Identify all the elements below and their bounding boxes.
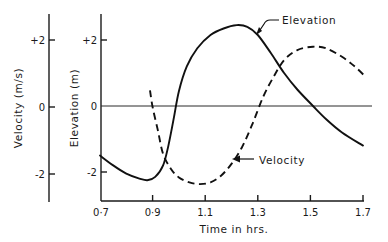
x-tick-label: 0·9 bbox=[145, 207, 161, 218]
x-tick-label: 1.3 bbox=[250, 207, 266, 218]
elevation-annotation-label: Elevation bbox=[282, 14, 336, 26]
elevation-annotation: Elevation bbox=[256, 14, 336, 35]
velocity-series-line bbox=[150, 47, 366, 185]
velocity-tick-label: +2 bbox=[30, 35, 45, 46]
velocity-axis: +20-2 Velocity (m/s) bbox=[12, 14, 55, 202]
elevation-tick-label: 0 bbox=[91, 101, 97, 112]
elevation-tick-label: +2 bbox=[82, 35, 97, 46]
velocity-annotation-label: Velocity bbox=[259, 154, 305, 166]
x-tick-label: 1.7 bbox=[355, 207, 371, 218]
time-axis-title: Time in hrs. bbox=[199, 223, 269, 235]
chart: +20-2 Velocity (m/s) +20-2 Elevation (m)… bbox=[0, 0, 388, 242]
x-tick-label: 1.1 bbox=[197, 207, 213, 218]
time-axis: 0·70·91.11.31.51.7 Time in hrs. bbox=[93, 195, 371, 235]
velocity-tick-label: -2 bbox=[35, 169, 45, 180]
x-tick-label: 0·7 bbox=[93, 207, 109, 218]
velocity-tick-label: 0 bbox=[39, 102, 45, 113]
elevation-axis-title: Elevation (m) bbox=[68, 69, 80, 147]
elevation-tick-label: -2 bbox=[87, 167, 97, 178]
velocity-axis-title: Velocity (m/s) bbox=[12, 68, 24, 148]
elevation-axis: +20-2 Elevation (m) bbox=[68, 14, 107, 201]
velocity-annotation: Velocity bbox=[232, 154, 305, 166]
x-tick-label: 1.5 bbox=[302, 207, 318, 218]
